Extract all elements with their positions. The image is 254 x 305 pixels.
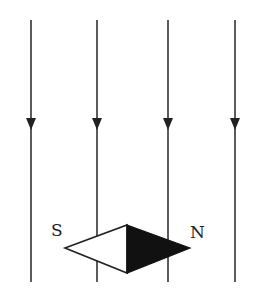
needle-south-half	[65, 225, 127, 273]
arrow-down-icon	[92, 118, 102, 130]
field-arrows	[26, 118, 240, 130]
magnetic-field-diagram: S N	[0, 0, 254, 305]
arrow-down-icon	[163, 118, 173, 130]
south-pole-label: S	[51, 220, 63, 240]
compass-needle	[65, 225, 190, 273]
needle-north-half	[127, 225, 190, 273]
north-pole-label: N	[190, 222, 205, 242]
arrow-down-icon	[230, 118, 240, 130]
arrow-down-icon	[26, 118, 36, 130]
